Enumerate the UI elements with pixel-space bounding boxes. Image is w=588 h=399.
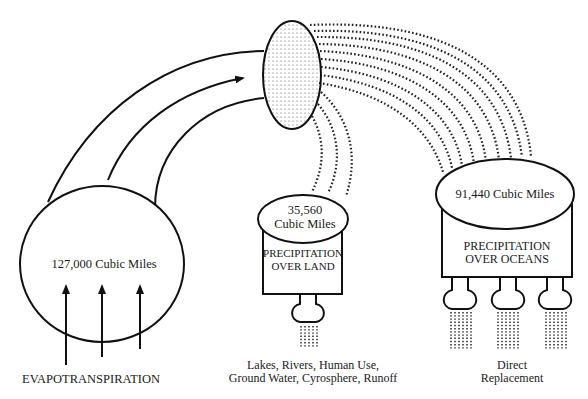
ocean-rain-icon [546, 312, 566, 350]
evaporation-caption: EVAPOTRANSPIRATION [22, 372, 160, 386]
ocean-spout-icon [492, 277, 525, 309]
land-box-line1: PRECIPITATION [263, 247, 343, 259]
land-precipitation-paths [312, 92, 352, 196]
dotted-path [319, 44, 499, 160]
evaporation-flow [48, 51, 264, 208]
evaporation-node: 127,000 Cubic Miles EVAPOTRANSPIRATION [20, 186, 184, 386]
dotted-path [321, 67, 462, 166]
ocean-node: 91,440 Cubic Miles PRECIPITATION OVER OC… [436, 159, 574, 385]
flow-arrow [108, 78, 243, 180]
ocean-box-line2: OVER OCEANS [465, 252, 549, 266]
dotted-path [321, 92, 352, 196]
dotted-path [318, 104, 337, 193]
ocean-volume: 91,440 Cubic Miles [456, 187, 555, 201]
land-caption-line2: Ground Water, Cyrosphere, Runoff [229, 371, 397, 385]
ocean-box-line1: PRECIPITATION [463, 239, 550, 253]
flow-inner-edge [155, 98, 264, 208]
evaporation-volume: 127,000 Cubic Miles [51, 257, 156, 271]
dotted-path [319, 83, 443, 172]
water-cycle-diagram: 127,000 Cubic Miles EVAPOTRANSPIRATION 3… [0, 0, 588, 399]
dotted-path [320, 51, 486, 162]
land-rain-icon [301, 326, 317, 348]
ocean-caption-line2: Replacement [481, 371, 544, 385]
dotted-path [320, 75, 452, 168]
ocean-spout-icon [539, 277, 572, 309]
land-volume-line2: Cubic Miles [274, 217, 336, 231]
land-box-line2: OVER LAND [271, 260, 334, 272]
ocean-precipitation-paths [310, 24, 531, 172]
dotted-path [317, 37, 511, 158]
ocean-spout-icon [444, 277, 477, 309]
land-volume-line1: 35,560 [288, 203, 322, 217]
land-caption-line1: Lakes, Rivers, Human Use, [247, 358, 379, 372]
flow-outer-edge [48, 51, 264, 202]
ocean-rain-icon [498, 312, 518, 350]
land-node: 35,560 Cubic Miles PRECIPITATION OVER LA… [229, 195, 397, 385]
ocean-rain-icon [451, 312, 471, 350]
land-spout-icon [292, 294, 324, 322]
ocean-caption-line1: Direct [497, 358, 528, 372]
dotted-path [314, 31, 522, 157]
cloud-icon [263, 21, 321, 129]
dotted-path [312, 116, 322, 192]
